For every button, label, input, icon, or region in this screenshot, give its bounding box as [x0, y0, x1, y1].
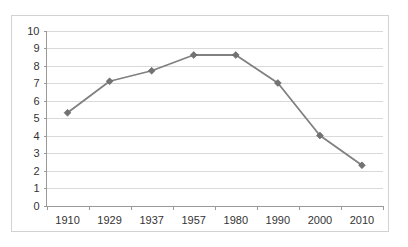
y-axis-tick-label: 10 — [27, 25, 39, 37]
y-axis-tick-label: 9 — [33, 42, 39, 54]
data-series-line — [68, 55, 362, 165]
x-axis-tick-label: 1929 — [97, 214, 121, 226]
line-chart-svg: 012345678910 191019291937195719801990200… — [0, 0, 408, 247]
y-axis-tick-label: 2 — [33, 165, 39, 177]
data-point-markers-group — [64, 52, 365, 169]
y-axis-tick-label: 3 — [33, 147, 39, 159]
x-axis-tick-label: 1980 — [224, 214, 248, 226]
y-axis-tick-label: 7 — [33, 77, 39, 89]
y-axis-tick-label: 8 — [33, 60, 39, 72]
y-axis-tick-label: 6 — [33, 95, 39, 107]
x-axis-tick-label: 1990 — [266, 214, 290, 226]
gridlines-group — [47, 32, 384, 207]
data-point-marker — [190, 52, 197, 59]
x-axis-tick-label: 1957 — [181, 214, 205, 226]
chart-figure: 012345678910 191019291937195719801990200… — [0, 0, 408, 247]
x-axis-tick-label: 2010 — [350, 214, 374, 226]
x-axis-tick-label: 1937 — [139, 214, 163, 226]
x-axis-tick-label: 2000 — [308, 214, 332, 226]
y-axis-labels-group: 012345678910 — [27, 25, 39, 212]
y-axis-tick-label: 4 — [33, 130, 39, 142]
x-axis-labels-group: 19101929193719571980199020002010 — [55, 214, 374, 226]
x-axis-tick-label: 1910 — [55, 214, 79, 226]
data-point-marker — [148, 67, 155, 74]
y-axis-tick-label: 5 — [33, 112, 39, 124]
y-axis-tick-label: 0 — [33, 200, 39, 212]
y-axis-tick-label: 1 — [33, 182, 39, 194]
